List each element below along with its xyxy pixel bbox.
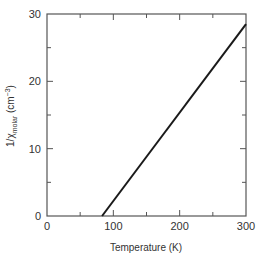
x-tick-label: 300	[237, 220, 255, 232]
y-axis-ticks: 0102030	[29, 8, 246, 222]
plot-border	[47, 14, 246, 216]
y-tick-label: 0	[35, 210, 41, 222]
y-label-close: )	[5, 85, 16, 88]
x-tick-label: 100	[104, 220, 122, 232]
x-tick-label: 200	[170, 220, 188, 232]
data-line	[102, 24, 246, 216]
y-tick-label: 20	[29, 75, 41, 87]
chart: 0100200300 0102030 Temperature (K) 1/χmo…	[0, 0, 260, 261]
y-label-exponent: −3	[4, 88, 11, 96]
y-label-subscript: molar	[11, 115, 18, 133]
y-label-units: (cm	[5, 96, 16, 115]
x-axis-ticks: 0100200300	[44, 14, 255, 232]
plot-frame	[47, 14, 246, 216]
data-series	[102, 24, 246, 216]
x-tick-label: 0	[44, 220, 50, 232]
y-axis-label: 1/χmolar (cm−3)	[4, 85, 18, 147]
y-tick-label: 10	[29, 143, 41, 155]
x-axis-label: Temperature (K)	[110, 242, 182, 253]
y-label-prefix: 1/χ	[5, 133, 16, 147]
y-tick-label: 30	[29, 8, 41, 20]
